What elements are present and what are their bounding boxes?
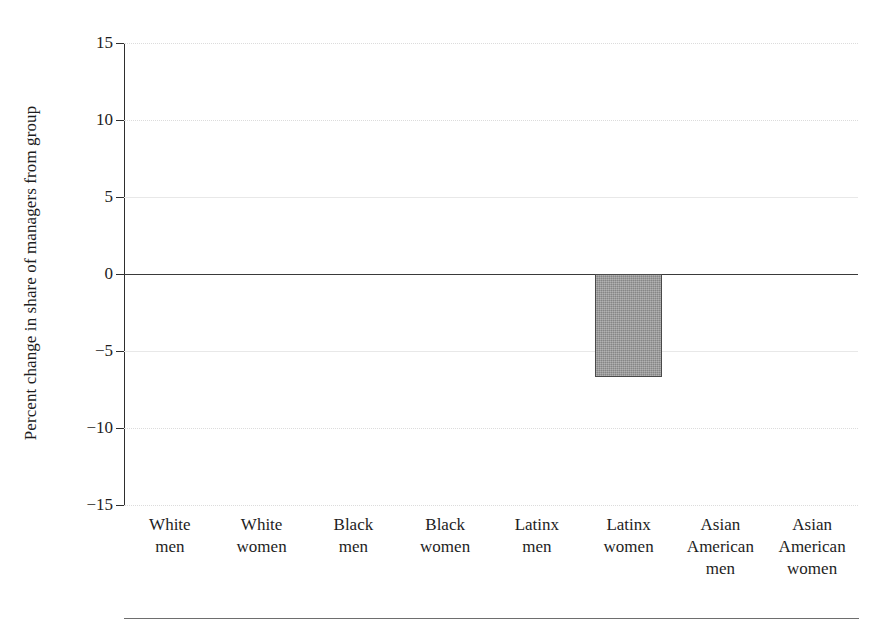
zero-baseline — [124, 274, 858, 275]
y-axis-tick-label: −10 — [86, 418, 113, 438]
gridline — [124, 120, 858, 122]
chart-page: Percent change in share of managers from… — [0, 0, 893, 636]
x-axis-category-label: Blackwomen — [399, 510, 491, 594]
plot-area: 151050−5−10−15 — [124, 43, 858, 505]
category-label-line: American — [766, 536, 858, 558]
y-axis-tick-label: 0 — [105, 264, 114, 284]
category-label-line: men — [675, 558, 767, 580]
x-axis-category-label: Latinxwomen — [583, 510, 675, 594]
category-label-line: Black — [399, 514, 491, 536]
gridline — [124, 505, 858, 507]
tick-mark — [116, 428, 124, 429]
category-label-line: Asian — [766, 514, 858, 536]
gridline — [124, 197, 858, 198]
category-label-line: men — [491, 536, 583, 558]
x-axis-category-label: AsianAmericanwomen — [766, 510, 858, 594]
x-axis-category-label: AsianAmericanmen — [675, 510, 767, 594]
y-axis-tick-label: 10 — [96, 110, 113, 130]
x-axis-category-label: Whitewomen — [216, 510, 308, 594]
bar-latinx-women — [595, 274, 662, 377]
y-axis-title: Percent change in share of managers from… — [16, 38, 46, 508]
category-label-line: American — [675, 536, 767, 558]
category-label-line: women — [583, 536, 675, 558]
tick-mark — [116, 351, 124, 352]
category-label-line: Latinx — [491, 514, 583, 536]
category-label-line: women — [766, 558, 858, 580]
gridline — [124, 428, 858, 430]
category-label-line: Black — [308, 514, 400, 536]
y-axis-tick-label: −5 — [95, 341, 113, 361]
x-axis-category-label: Whitemen — [124, 510, 216, 594]
tick-mark — [116, 274, 124, 275]
category-label-line: Asian — [675, 514, 767, 536]
category-label-line: men — [308, 536, 400, 558]
footnote-rule — [124, 618, 859, 619]
gridline — [124, 43, 858, 45]
footnote-text — [124, 622, 859, 636]
y-axis-tick-label: 5 — [105, 187, 114, 207]
category-label-line: White — [216, 514, 308, 536]
category-label-line: Latinx — [583, 514, 675, 536]
gridline — [124, 351, 858, 352]
category-label-line: White — [124, 514, 216, 536]
category-label-line: men — [124, 536, 216, 558]
tick-mark — [116, 120, 124, 121]
y-axis-tick-label: 15 — [96, 33, 113, 53]
x-axis-category-label: Latinxmen — [491, 510, 583, 594]
tick-mark — [116, 43, 124, 44]
x-axis-category-labels: WhitemenWhitewomenBlackmenBlackwomenLati… — [124, 510, 858, 594]
x-axis-category-label: Blackmen — [308, 510, 400, 594]
y-axis-tick-label: −15 — [86, 495, 113, 515]
category-label-line: women — [216, 536, 308, 558]
tick-mark — [116, 197, 124, 198]
category-label-line: women — [399, 536, 491, 558]
tick-mark — [116, 505, 124, 506]
